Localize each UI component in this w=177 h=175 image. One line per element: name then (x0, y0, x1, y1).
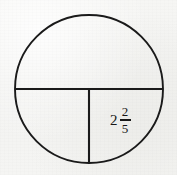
whole-number-part: 2 (110, 113, 120, 128)
mixed-number-label: 2 2 5 (110, 105, 131, 135)
fraction-numerator: 2 (121, 105, 130, 119)
fraction-circle-figure: 2 2 5 (0, 0, 177, 175)
circle-diagram (0, 0, 177, 175)
fraction-denominator: 5 (121, 121, 130, 135)
fraction-part: 2 5 (120, 105, 131, 135)
